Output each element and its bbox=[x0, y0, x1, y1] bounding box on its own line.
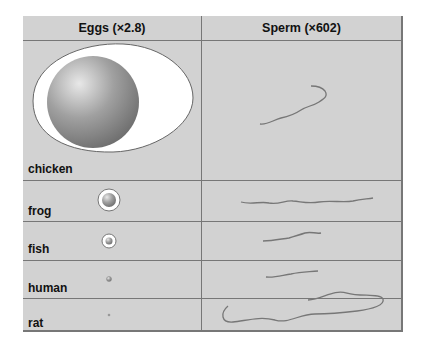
human-egg-icon bbox=[107, 277, 112, 282]
frog-sperm-icon bbox=[241, 198, 373, 203]
illustrations bbox=[23, 16, 403, 332]
chicken-egg-icon bbox=[33, 44, 193, 152]
fish-egg-icon bbox=[102, 234, 116, 248]
rat-egg-icon bbox=[108, 314, 111, 317]
label-frog: frog bbox=[28, 204, 51, 218]
frog-egg-icon bbox=[98, 189, 120, 211]
fish-sperm-icon bbox=[263, 232, 321, 241]
rat-sperm-icon bbox=[223, 292, 383, 322]
label-rat: rat bbox=[28, 316, 43, 330]
human-sperm-icon bbox=[266, 271, 318, 277]
chicken-sperm-icon bbox=[260, 86, 326, 124]
label-chicken: chicken bbox=[28, 162, 73, 176]
label-human: human bbox=[28, 281, 67, 295]
egg-sperm-comparison-table: Eggs (×2.8) Sperm (×602) bbox=[23, 16, 403, 332]
label-fish: fish bbox=[28, 242, 49, 256]
